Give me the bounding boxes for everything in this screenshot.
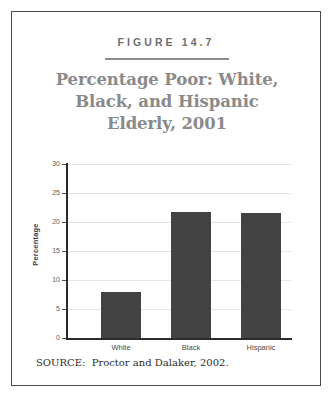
ytick-label-30: 30 (36, 160, 60, 167)
y-axis-line (66, 163, 68, 339)
bar-chart-plot: 30 25 20 15 10 5 0 Percentage White Blac… (12, 12, 322, 387)
bar-hispanic (241, 213, 281, 338)
bar-white (101, 292, 141, 338)
ytick-label-20: 20 (36, 218, 60, 225)
ytick-label-25: 25 (36, 189, 60, 196)
xtick-label-black: Black (171, 343, 211, 352)
ytick-label-0: 0 (36, 334, 60, 341)
ytick-label-10: 10 (36, 276, 60, 283)
x-axis-line (66, 338, 292, 340)
xtick-label-hispanic: Hispanic (237, 343, 285, 352)
bar-black (171, 212, 211, 338)
gridline-30 (67, 164, 291, 165)
source-note: SOURCE: Proctor and Dalaker, 2002. (36, 357, 229, 368)
gridline-25 (67, 193, 291, 194)
y-axis-title: Percentage (31, 210, 40, 280)
xtick-label-white: White (101, 343, 141, 352)
ytick-label-15: 15 (36, 247, 60, 254)
ytick-label-5: 5 (36, 305, 60, 312)
figure-box: FIGURE 14.7 Percentage Poor: White, Blac… (11, 11, 321, 386)
